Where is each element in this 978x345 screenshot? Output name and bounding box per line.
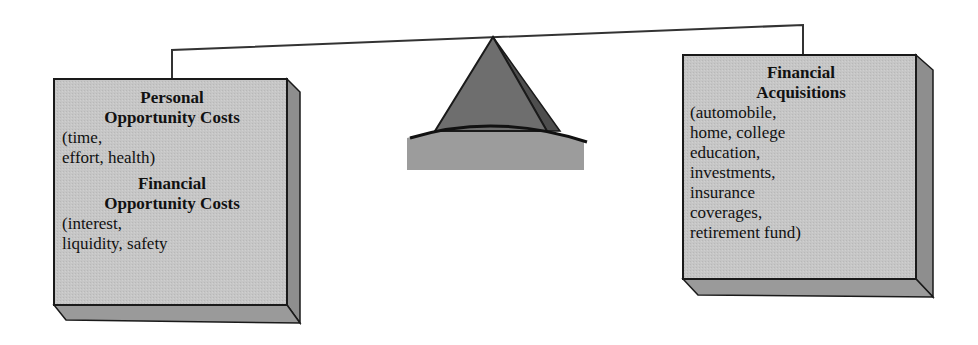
personal-costs-heading-2: Opportunity Costs (62, 108, 282, 128)
personal-costs-detail-2: effort, health) (62, 148, 282, 168)
acquisitions-detail-5: insurance (690, 183, 912, 203)
acquisitions-detail-7: retirement fund) (690, 223, 912, 243)
acquisitions-detail-2: home, college (690, 123, 912, 143)
financial-costs-heading-2: Opportunity Costs (62, 194, 282, 214)
acquisitions-detail-6: coverages, (690, 203, 912, 223)
acquisitions-heading-1: Financial (690, 63, 912, 83)
acquisitions-detail-4: investments, (690, 163, 912, 183)
right-box-bottom (683, 279, 933, 297)
left-box-side (287, 79, 300, 323)
right-box-text: Financial Acquisitions (automobile, home… (690, 63, 912, 243)
personal-costs-detail-1: (time, (62, 128, 282, 148)
right-box-side (916, 55, 933, 297)
financial-costs-detail-2: liquidity, safety (62, 234, 282, 254)
fulcrum-face (435, 37, 547, 131)
left-box-text: Personal Opportunity Costs (time, effort… (62, 88, 282, 254)
personal-costs-heading-1: Personal (62, 88, 282, 108)
fulcrum (407, 37, 587, 170)
acquisitions-detail-1: (automobile, (690, 103, 912, 123)
left-box-bottom (54, 305, 300, 323)
acquisitions-detail-3: education, (690, 143, 912, 163)
financial-costs-detail-1: (interest, (62, 214, 282, 234)
financial-costs-heading-1: Financial (62, 174, 282, 194)
acquisitions-heading-2: Acquisitions (690, 83, 912, 103)
